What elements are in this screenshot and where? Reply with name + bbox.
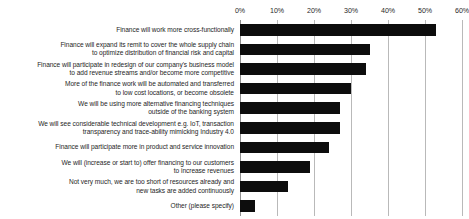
bar-row xyxy=(240,122,462,134)
category-label: Finance will expand its remit to cover t… xyxy=(0,40,234,60)
bar xyxy=(240,83,351,95)
category-label-line: to increase revenues xyxy=(174,167,234,175)
bar xyxy=(240,161,310,173)
bars-layer xyxy=(240,20,462,216)
bar xyxy=(240,44,370,56)
category-label: Other (please specify) xyxy=(0,196,234,216)
x-axis-tick-label: 10% xyxy=(270,7,284,15)
category-label-line: Finance will participate in redesign of … xyxy=(37,61,234,69)
category-label: We will (increase or start to) offer fin… xyxy=(0,157,234,177)
horizontal-bar-chart: 0%10%20%30%40%50%60% Finance will work m… xyxy=(0,0,469,219)
x-axis-tick-label: 20% xyxy=(307,7,321,15)
bar xyxy=(240,122,340,134)
x-axis-tick-label: 60% xyxy=(455,7,469,15)
category-label-line: Other (please specify) xyxy=(171,202,234,210)
category-label-line: We will (increase or start to) offer fin… xyxy=(61,159,234,167)
category-label: Finance will work more cross-functionall… xyxy=(0,20,234,40)
category-label: We will be using more alternative financ… xyxy=(0,98,234,118)
category-label-line: More of the finance work will be automat… xyxy=(65,80,234,88)
category-label-line: Finance will expand its remit to cover t… xyxy=(60,41,234,49)
category-label-line: to optimize distribution of financial ri… xyxy=(92,49,234,57)
bar-row xyxy=(240,142,462,154)
category-label: Finance will participate more in product… xyxy=(0,138,234,158)
bar-row xyxy=(240,161,462,173)
x-axis-tick-label: 0% xyxy=(235,7,245,15)
bar-row xyxy=(240,83,462,95)
x-axis-tick-label: 50% xyxy=(418,7,432,15)
bar xyxy=(240,142,329,154)
category-label-line: to low cost locations, or become obsolet… xyxy=(115,89,234,97)
category-label-line: We will see considerable technical devel… xyxy=(38,120,234,128)
x-axis-tick-label: 40% xyxy=(381,7,395,15)
bar xyxy=(240,24,436,36)
gridline xyxy=(462,20,463,216)
bar xyxy=(240,200,255,212)
x-axis-tick-labels: 0%10%20%30%40%50%60% xyxy=(0,7,469,19)
category-label: We will see considerable technical devel… xyxy=(0,118,234,138)
bar-row xyxy=(240,44,462,56)
category-label-line: We will be using more alternative financ… xyxy=(78,100,234,108)
category-label: Not very much, we are too short of resou… xyxy=(0,177,234,197)
category-axis-labels: Finance will work more cross-functionall… xyxy=(0,20,237,216)
category-label-line: transparency and trace-ability mimicking… xyxy=(83,128,234,136)
plot-area xyxy=(240,20,462,216)
category-label: Finance will participate in redesign of … xyxy=(0,59,234,79)
bar xyxy=(240,63,366,75)
x-axis-tick-label: 30% xyxy=(344,7,358,15)
bar xyxy=(240,102,340,114)
bar-row xyxy=(240,102,462,114)
category-label: More of the finance work will be automat… xyxy=(0,79,234,99)
bar xyxy=(240,181,288,193)
category-label-line: to add revenue streams and/or become mor… xyxy=(70,69,234,77)
bar-row xyxy=(240,24,462,36)
category-label-line: new tasks are added continuously xyxy=(136,187,234,195)
category-label-line: Finance will participate more in product… xyxy=(55,143,234,151)
category-label-line: Not very much, we are too short of resou… xyxy=(69,178,234,186)
category-label-line: Finance will work more cross-functionall… xyxy=(116,26,234,34)
bar-row xyxy=(240,63,462,75)
bar-row xyxy=(240,181,462,193)
bar-row xyxy=(240,200,462,212)
category-label-line: outside of the banking system xyxy=(148,108,234,116)
